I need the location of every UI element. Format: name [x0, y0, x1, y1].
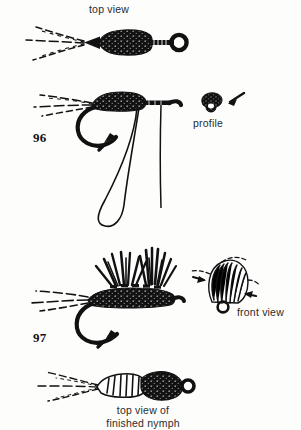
hook-bend-96: [78, 107, 116, 146]
dubbing-loop-96: [98, 108, 139, 226]
figure-profile-artwork: [202, 93, 244, 112]
label-front-view: front view: [237, 306, 284, 318]
tail-fibres-top: [26, 27, 84, 60]
illustration-plate: top view profile front view top view of …: [0, 0, 301, 430]
label-profile: profile: [193, 117, 223, 129]
figure-97-artwork: [30, 248, 184, 347]
label-finished-nymph-line2: finished nymph: [84, 417, 202, 430]
arrow-icon-profile: [228, 93, 244, 106]
hackle-clump-rear-97: [96, 252, 146, 286]
tail-fibres-finished: [38, 372, 98, 401]
nymph-body-97: [88, 288, 175, 308]
label-top-view: top view: [89, 3, 129, 15]
arrow-icon-front-view-left: [193, 276, 206, 283]
figure-number-97: 97: [33, 330, 47, 346]
hook-shank-96: [143, 101, 171, 106]
tail-fibres-97: [30, 291, 88, 311]
fly-tying-artwork: [0, 0, 301, 430]
hook-shank-top: [150, 40, 172, 45]
profile-eye-hole: [208, 104, 214, 109]
figure-front-view-artwork: [192, 257, 260, 312]
figure-96-artwork: [34, 92, 181, 226]
label-finished-nymph: top view of finished nymph: [84, 404, 202, 429]
hackle-clump-front-97: [140, 248, 176, 286]
profile-shape: [202, 93, 222, 112]
finished-hook-eye: [182, 380, 194, 392]
nymph-body-top: [99, 30, 152, 55]
figure-top-view: [26, 27, 187, 60]
abdomen-taper-top: [84, 37, 100, 50]
front-view-hook-eye: [218, 302, 229, 313]
dubbed-thorax-96: [92, 92, 146, 111]
figure-finished-nymph-artwork: [38, 372, 194, 401]
figure-number-96: 96: [33, 130, 47, 146]
tying-thread-96: [160, 105, 161, 208]
hook-eye-96: [169, 101, 181, 105]
label-finished-nymph-line1: top view of: [84, 404, 202, 417]
